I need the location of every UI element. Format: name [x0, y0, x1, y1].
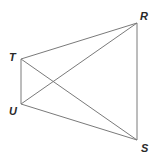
- segment-TS: [21, 59, 137, 140]
- point-label-S: S: [141, 142, 149, 154]
- point-label-R: R: [140, 10, 148, 22]
- point-label-U: U: [9, 105, 18, 117]
- segment-UR: [21, 23, 137, 104]
- point-label-T: T: [9, 51, 17, 63]
- geometry-diagram: T R U S: [0, 0, 154, 160]
- segment-TR: [21, 23, 137, 59]
- segment-US: [21, 104, 137, 140]
